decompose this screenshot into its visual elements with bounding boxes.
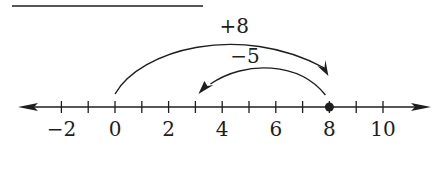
tick-label: −2 xyxy=(47,117,76,141)
jump-arrowhead-icon xyxy=(317,60,328,76)
tick-label: 8 xyxy=(323,117,336,141)
point-marker xyxy=(325,103,334,112)
number-line-diagram: −20246810 +8−5 xyxy=(0,0,447,172)
tick-label: 4 xyxy=(216,117,229,141)
jump-label: −5 xyxy=(230,44,259,68)
tick-label: 2 xyxy=(162,117,175,141)
jump-arc xyxy=(210,68,325,95)
tick-label: 10 xyxy=(370,117,395,141)
tick-label: 0 xyxy=(109,117,122,141)
tick-label: 6 xyxy=(269,117,282,141)
jump-arc xyxy=(115,44,324,94)
jump-label: +8 xyxy=(219,14,248,38)
